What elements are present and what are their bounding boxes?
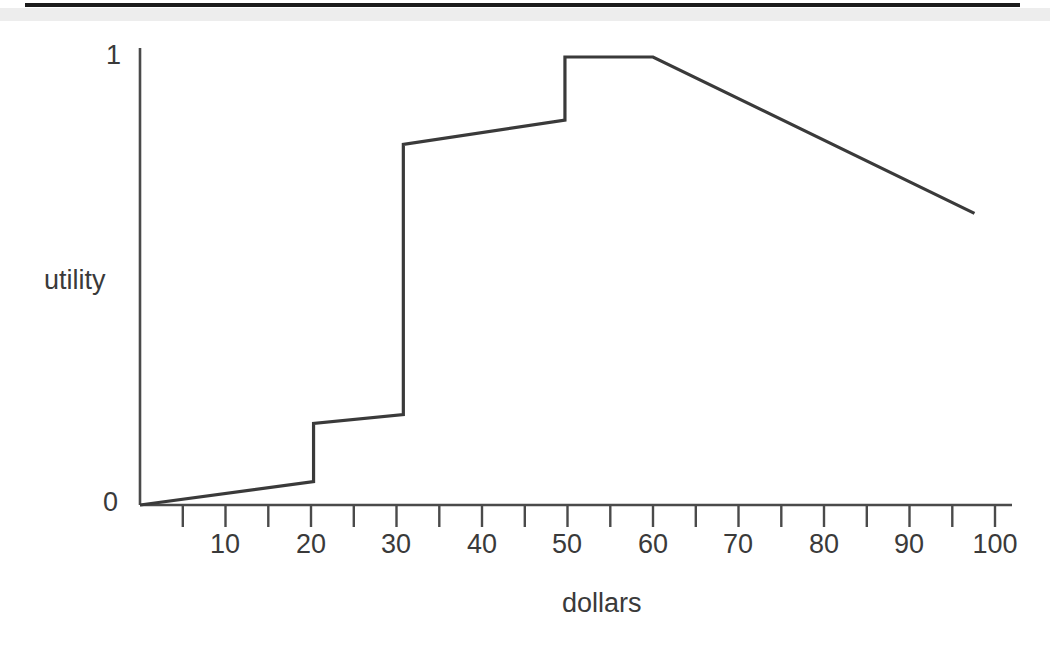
x-tick-label-40: 40 bbox=[442, 531, 522, 558]
x-tick-label-20: 20 bbox=[271, 531, 351, 558]
x-axis-ticks bbox=[183, 505, 995, 527]
x-tick-label-60: 60 bbox=[613, 531, 693, 558]
figure-page: 1 0 utility dollars 10 20 30 40 50 60 70… bbox=[0, 0, 1050, 657]
y-tick-label-1: 1 bbox=[106, 42, 121, 69]
y-axis-title: utility bbox=[44, 267, 106, 294]
x-axis-title: dollars bbox=[562, 590, 642, 617]
x-tick-label-100: 100 bbox=[955, 531, 1035, 558]
x-tick-label-30: 30 bbox=[356, 531, 436, 558]
x-tick-label-90: 90 bbox=[869, 531, 949, 558]
plot-canvas bbox=[0, 0, 1050, 657]
x-tick-label-70: 70 bbox=[698, 531, 778, 558]
x-tick-label-80: 80 bbox=[784, 531, 864, 558]
utility-curve bbox=[140, 57, 974, 505]
x-tick-label-10: 10 bbox=[185, 531, 265, 558]
y-tick-label-0: 0 bbox=[103, 489, 118, 516]
x-tick-label-50: 50 bbox=[527, 531, 607, 558]
utility-vs-dollars-figure: 1 0 utility dollars 10 20 30 40 50 60 70… bbox=[0, 0, 1050, 657]
